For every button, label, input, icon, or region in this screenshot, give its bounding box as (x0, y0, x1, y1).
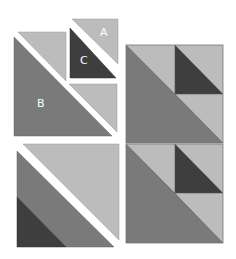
exploded-block-bottom (17, 144, 119, 247)
label-a: A (100, 26, 108, 39)
exploded-block-top: A C B (14, 19, 118, 136)
assembled-block-top (126, 45, 223, 143)
assembled-block-bottom (126, 144, 223, 243)
quilt-diagram: A C B (0, 0, 236, 259)
label-c: C (80, 54, 88, 67)
label-b: B (37, 97, 45, 110)
